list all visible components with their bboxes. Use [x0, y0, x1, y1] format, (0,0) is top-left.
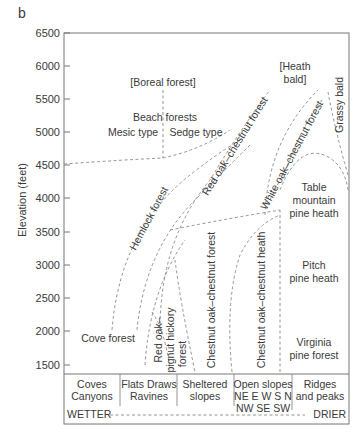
label-heath-bald: [Heath: [280, 60, 311, 72]
y-tick: 6000: [36, 60, 60, 72]
label-red-oak-chestnut-forest: Red oak–chestnut forest: [199, 94, 270, 197]
topo-aspects-2: NW SE SW: [236, 402, 290, 414]
topo-ridges: Ridges: [304, 378, 337, 390]
label-pitch-pine-heath: Pitch: [302, 259, 326, 271]
topography-labels: Coves Canyons Flats Draws Ravines Shelte…: [71, 378, 344, 414]
topo-sheltered: Sheltered: [183, 378, 228, 390]
y-tick: 3500: [36, 226, 60, 238]
label-red-oak-pignut-3: forest: [176, 341, 188, 367]
topo-coves: Coves: [77, 378, 107, 390]
y-tick: 2500: [36, 292, 60, 304]
y-axis: [64, 33, 70, 365]
label-sedge-type: Sedge type: [169, 126, 222, 138]
y-tick: 4500: [36, 159, 60, 171]
topo-flats-draws: Flats Draws: [121, 378, 176, 390]
label-beach-forests: Beach forests: [133, 111, 197, 123]
y-tick: 5500: [36, 93, 60, 105]
y-tick: 4000: [36, 192, 60, 204]
y-tick-labels: 6500 6000 5500 5000 4500 4000 3500 3000 …: [36, 27, 60, 371]
label-virginia-pine-forest: Virginia: [297, 336, 332, 348]
topo-peaks: and peaks: [296, 390, 344, 402]
topo-slopes: slopes: [190, 390, 220, 402]
label-table-mountain-pine-heath-3: pine heath: [289, 207, 338, 219]
label-pitch-pine-heath-2: pine heath: [289, 272, 338, 284]
topo-ravines: Ravines: [130, 390, 168, 402]
y-tick: 1500: [36, 359, 60, 371]
label-drier: DRIER: [313, 408, 346, 420]
label-cove-forest: Cove forest: [81, 332, 135, 344]
label-mesic-type: Mesic type: [108, 126, 158, 138]
label-wetter: WETTER: [67, 408, 112, 420]
y-tick: 2000: [36, 325, 60, 337]
label-grassy-bald: Grassy bald: [333, 77, 345, 133]
label-table-mountain-pine-heath: Table: [301, 181, 326, 193]
zone-labels: [Boreal forest] Beach forests Mesic type…: [81, 60, 345, 372]
topo-open-slopes: Open slopes: [234, 378, 293, 390]
y-axis-label: Elevation (feet): [16, 163, 28, 237]
label-virginia-pine-forest-2: pine forest: [289, 349, 338, 361]
label-heath-bald-2: bald]: [284, 73, 307, 85]
vegetation-diagram: b 6500 6000 5500 5000 4500 4000 3500 300…: [0, 0, 361, 435]
y-tick: 6500: [36, 27, 60, 39]
y-tick: 3000: [36, 259, 60, 271]
label-hemlock-forest: Hemlock forest: [127, 184, 171, 252]
label-red-oak-pignut: Red oak–: [152, 317, 164, 362]
label-boreal-forest: [Boreal forest]: [130, 76, 195, 88]
topo-aspects-1: NE E W S N: [234, 390, 292, 402]
label-chestnut-oak-heath: Chestnut oak–chestnut heath: [255, 232, 267, 369]
panel-label: b: [18, 5, 26, 21]
label-red-oak-pignut-2: pignut hickory: [164, 307, 176, 373]
label-table-mountain-pine-heath-2: mountain: [292, 194, 335, 206]
topo-canyons: Canyons: [71, 390, 112, 402]
y-tick: 5000: [36, 126, 60, 138]
label-chestnut-oak-forest: Chestnut oak–chestnut forest: [205, 232, 217, 369]
